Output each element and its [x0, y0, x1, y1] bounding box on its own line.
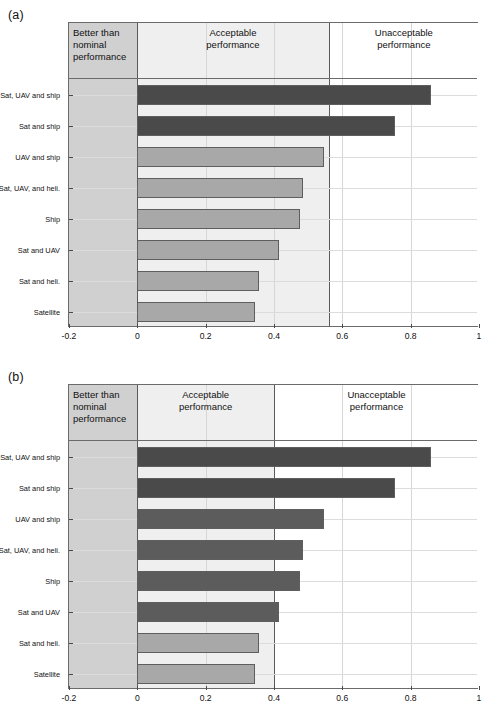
zone-caption-band-rule: [69, 78, 477, 79]
x-axis-label-5: 0.8: [391, 693, 431, 703]
zone-caption-line: performance: [329, 39, 479, 51]
zone-caption-0: Better thannominalperformance: [73, 389, 135, 426]
bar-ship: [137, 209, 299, 229]
bar-sat-uav-and-heli: [137, 178, 303, 198]
y-gridline: [69, 281, 477, 282]
y-axis-tick: [69, 312, 73, 313]
y-axis-label-7: Satellite: [34, 308, 60, 317]
bar-uav-and-ship: [137, 509, 323, 529]
zone-caption-band-rule: [69, 440, 477, 441]
y-axis-label-3: Sat, UAV, and heli.: [0, 545, 60, 554]
x-axis-label-6: 1: [459, 693, 491, 703]
y-gridline: [69, 312, 477, 313]
y-axis-tick: [69, 188, 73, 189]
bar-satellite: [137, 664, 255, 684]
y-axis-label-0: Sat, UAV and ship: [0, 90, 60, 99]
bar-sat-uav-and-heli: [137, 540, 303, 560]
bar-sat-uav-and-ship: [137, 447, 431, 467]
y-axis-label-4: Ship: [45, 577, 60, 586]
zone-caption-line: Acceptable: [137, 389, 274, 401]
x-axis-tick: [411, 686, 412, 690]
zone-caption-line: performance: [137, 39, 328, 51]
panel-a-tag: (a): [8, 8, 24, 22]
zone-caption-band: Better thannominalperformanceAcceptablep…: [69, 23, 477, 79]
bar-sat-and-ship: [137, 478, 395, 498]
y-axis-label-7: Satellite: [34, 670, 60, 679]
zone-caption-0: Better thannominalperformance: [73, 27, 135, 64]
y-axis-label-2: UAV and ship: [15, 514, 60, 523]
zone-caption-line: performance: [73, 413, 135, 425]
bar-sat-uav-and-ship: [137, 85, 431, 105]
panel-b-plot-area: Better thannominalperformanceAcceptablep…: [68, 384, 478, 689]
x-axis-tick: [479, 324, 480, 328]
zone-caption-band: Better thannominalperformanceAcceptablep…: [69, 385, 477, 441]
x-axis-label-0: -0.2: [49, 331, 89, 341]
y-axis-tick: [69, 95, 73, 96]
zone-caption-line: Better than: [73, 27, 135, 39]
x-axis-tick: [137, 324, 138, 328]
x-axis-label-3: 0.4: [254, 331, 294, 341]
y-axis-tick: [69, 519, 73, 520]
y-axis-tick: [69, 250, 73, 251]
x-axis-label-6: 1: [459, 331, 491, 341]
x-axis-tick: [137, 686, 138, 690]
x-axis-label-4: 0.6: [322, 331, 362, 341]
bar-sat-and-heli: [137, 633, 258, 653]
bar-sat-and-ship: [137, 116, 395, 136]
zone-caption-line: performance: [137, 401, 274, 413]
y-axis-tick: [69, 488, 73, 489]
bar-satellite: [137, 302, 255, 322]
y-axis-label-3: Sat, UAV, and heli.: [0, 183, 60, 192]
zone-caption-1: Acceptableperformance: [137, 389, 274, 413]
y-axis-tick: [69, 219, 73, 220]
y-axis-label-5: Sat and UAV: [18, 246, 60, 255]
panel-a: (a) Better thannominalperformanceAccepta…: [0, 0, 491, 362]
panel-b: (b) Better thannominalperformanceAccepta…: [0, 362, 491, 724]
zone-caption-1: Acceptableperformance: [137, 27, 328, 51]
zone-caption-line: Acceptable: [137, 27, 328, 39]
x-axis-tick: [206, 686, 207, 690]
y-axis-label-1: Sat and ship: [19, 121, 60, 130]
zone-caption-line: performance: [274, 401, 479, 413]
x-axis-tick: [342, 686, 343, 690]
y-axis-label-6: Sat and heli.: [19, 639, 60, 648]
y-axis-label-5: Sat and UAV: [18, 608, 60, 617]
x-axis-label-1: 0: [117, 693, 157, 703]
y-gridline: [69, 674, 477, 675]
bar-sat-and-uav: [137, 602, 279, 622]
x-axis-tick: [206, 324, 207, 328]
x-axis-label-2: 0.2: [186, 331, 226, 341]
y-axis-tick: [69, 281, 73, 282]
x-axis-tick: [274, 686, 275, 690]
zone-caption-line: nominal: [73, 39, 135, 51]
y-axis-label-6: Sat and heli.: [19, 277, 60, 286]
y-axis-tick: [69, 457, 73, 458]
y-gridline: [69, 643, 477, 644]
x-axis-label-2: 0.2: [186, 693, 226, 703]
y-axis-tick: [69, 643, 73, 644]
y-axis-tick: [69, 157, 73, 158]
zone-caption-2: Unacceptableperformance: [274, 389, 479, 413]
bar-sat-and-uav: [137, 240, 279, 260]
x-axis-tick: [69, 324, 70, 328]
y-axis-label-4: Ship: [45, 215, 60, 224]
x-axis-label-1: 0: [117, 331, 157, 341]
zone-caption-line: Unacceptable: [274, 389, 479, 401]
x-axis-tick: [274, 324, 275, 328]
x-axis-tick: [342, 324, 343, 328]
panel-a-plot-area: Better thannominalperformanceAcceptablep…: [68, 22, 478, 327]
bar-sat-and-heli: [137, 271, 258, 291]
zone-caption-line: Unacceptable: [329, 27, 479, 39]
zone-caption-line: Better than: [73, 389, 135, 401]
y-axis-label-0: Sat, UAV and ship: [0, 452, 60, 461]
panel-b-tag: (b): [8, 370, 24, 384]
figure-container: (a) Better thannominalperformanceAccepta…: [0, 0, 491, 725]
y-axis-tick: [69, 550, 73, 551]
x-axis-tick: [411, 324, 412, 328]
y-axis-tick: [69, 612, 73, 613]
x-axis-tick: [479, 686, 480, 690]
zone-caption-line: performance: [73, 51, 135, 63]
y-axis-label-1: Sat and ship: [19, 483, 60, 492]
y-axis-label-2: UAV and ship: [15, 152, 60, 161]
zone-caption-line: nominal: [73, 401, 135, 413]
